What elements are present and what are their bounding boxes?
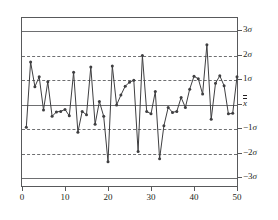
y-tick-2sigma (238, 55, 242, 56)
data-point (158, 157, 161, 160)
data-point (171, 111, 174, 114)
data-point (205, 43, 208, 46)
data-point (102, 115, 105, 118)
data-point (81, 110, 84, 113)
data-point (94, 123, 97, 126)
data-point (51, 115, 54, 118)
data-point (72, 71, 75, 74)
data-point (145, 110, 148, 113)
data-point (223, 84, 226, 87)
data-point (107, 160, 110, 163)
y-axis-label-minus2sigma: −2σ (243, 148, 257, 157)
data-point (85, 113, 88, 116)
data-point (111, 64, 114, 67)
x-tick-30 (151, 187, 152, 191)
y-axis-label-center: x (243, 99, 247, 108)
data-point (132, 79, 135, 82)
x-axis-label-40: 40 (190, 193, 199, 202)
data-point (29, 60, 32, 63)
y-axis-label-3sigma: 3σ (243, 25, 252, 34)
data-point (46, 80, 49, 83)
data-point (154, 90, 157, 93)
y-axis-label-2sigma: 2σ (243, 50, 252, 59)
data-point (150, 112, 153, 115)
data-point (124, 85, 127, 88)
data-point (180, 96, 183, 99)
x-axis-label-20: 20 (104, 193, 113, 202)
data-point (188, 88, 191, 91)
data-point (98, 100, 101, 103)
x-tick-50 (237, 187, 238, 191)
control-chart: 3σ 2σ 1σ x −1σ −2σ −3σ 01020304050 (0, 0, 278, 220)
data-point (115, 103, 118, 106)
data-point (76, 131, 79, 134)
x-axis-label-10: 10 (61, 193, 70, 202)
x-tick-0 (22, 187, 23, 191)
data-point (141, 54, 144, 57)
data-point (162, 124, 165, 127)
y-tick-1sigma (238, 79, 242, 80)
data-point (137, 150, 140, 153)
data-point (33, 85, 36, 88)
data-point (175, 110, 178, 113)
data-point (64, 108, 67, 111)
x-axis-label-0: 0 (20, 193, 25, 202)
data-point (25, 126, 28, 129)
data-point (218, 74, 221, 77)
y-tick-minus1sigma (238, 128, 242, 129)
x-axis-label-50: 50 (233, 193, 242, 202)
data-point (210, 118, 213, 121)
data-point (197, 77, 200, 80)
data-point (89, 65, 92, 68)
data-point (128, 81, 131, 84)
y-axis-label-minus3sigma: −3σ (243, 172, 257, 181)
data-point (119, 94, 122, 97)
data-point (214, 82, 217, 85)
x-axis-label-30: 30 (147, 193, 156, 202)
x-tick-20 (108, 187, 109, 191)
y-tick-center (238, 104, 242, 105)
data-point (167, 106, 170, 109)
data-point (38, 75, 41, 78)
data-point (42, 108, 45, 111)
y-tick-minus3sigma (238, 177, 242, 178)
y-axis-label-minus1sigma: −1σ (243, 123, 257, 132)
y-axis-label-1sigma: 1σ (243, 74, 252, 83)
series-line (26, 45, 237, 162)
data-point (227, 112, 230, 115)
y-tick-3sigma (238, 30, 242, 31)
data-point (236, 75, 239, 78)
data-point (68, 114, 71, 117)
x-tick-40 (194, 187, 195, 191)
data-point (59, 110, 62, 113)
data-point (201, 93, 204, 96)
x-tick-10 (65, 187, 66, 191)
plot-area (21, 17, 238, 187)
data-point (184, 106, 187, 109)
y-tick-minus2sigma (238, 153, 242, 154)
series-plot (22, 18, 237, 186)
data-point (231, 112, 234, 115)
data-point (193, 75, 196, 78)
data-point (55, 110, 58, 113)
